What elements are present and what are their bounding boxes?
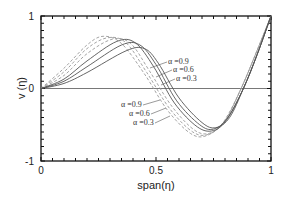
annotation-lower-alpha-0-3: α =0.3 [133,118,154,127]
annotation-upper-alpha-0-3: α =0.3 [176,74,197,83]
annotation-lower-alpha-0-9: α =0.9 [121,100,142,109]
y-tick-0: 0 [28,83,34,94]
x-tick-0-5: 0.5 [149,165,163,176]
y-tick-1: 1 [28,11,34,22]
x-tick-1: 1 [268,165,274,176]
y-axis-title: v (η) [15,77,27,99]
line-chart: 1 0 -1 0 0.5 1 span(η) v (η) α =0.9 α =0… [0,0,284,198]
annotation-upper-alpha-0-6: α =0.6 [173,65,194,74]
annotation-lower-alpha-0-6: α =0.6 [129,109,150,118]
x-tick-0: 0 [38,165,44,176]
x-axis-title: span(η) [137,179,174,191]
y-tick-minus-1: -1 [25,156,34,167]
